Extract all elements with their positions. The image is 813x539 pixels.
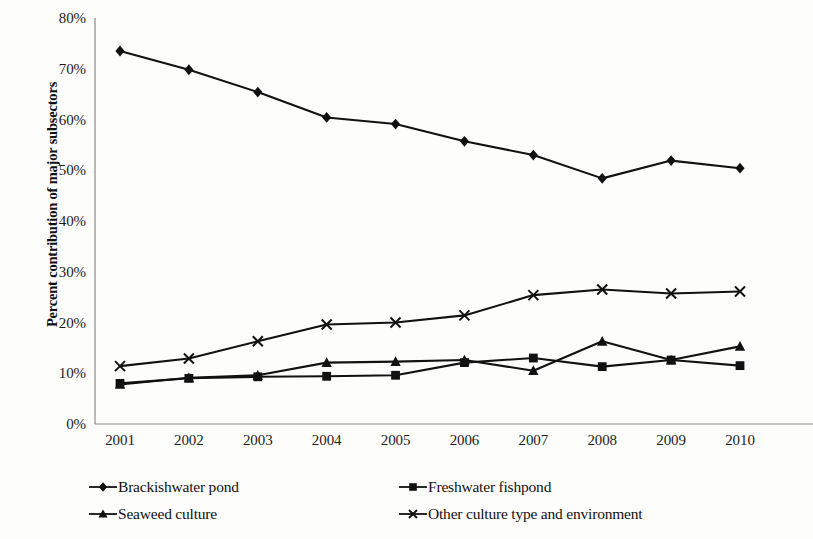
series-other-culture-type-and-environment bbox=[115, 285, 745, 372]
legend-item-brackishwater-pond: Brackishwater pond bbox=[88, 478, 398, 496]
data-point-diamond bbox=[460, 136, 469, 147]
legend-item-seaweed-culture: Seaweed culture bbox=[88, 505, 398, 523]
legend-item-other-culture-type-and-environment: Other culture type and environment bbox=[398, 505, 788, 523]
series-freshwater-fishpond bbox=[116, 354, 745, 388]
x-axis-tick-label: 2010 bbox=[725, 432, 755, 449]
cross-marker-icon bbox=[398, 507, 428, 521]
legend-label: Brackishwater pond bbox=[118, 478, 239, 496]
data-point-square bbox=[391, 371, 400, 380]
x-axis-tick-label: 2002 bbox=[174, 432, 204, 449]
data-point-diamond bbox=[322, 112, 331, 123]
data-point-diamond bbox=[115, 46, 124, 57]
data-point-diamond bbox=[391, 119, 400, 130]
square-marker-icon bbox=[398, 480, 428, 494]
x-axis-tick-label: 2005 bbox=[381, 432, 411, 449]
line-chart: Percent contribution of major subsectors… bbox=[0, 0, 813, 539]
data-point-square bbox=[322, 372, 331, 381]
x-axis-tick-label: 2008 bbox=[587, 432, 617, 449]
triangle-marker-icon bbox=[88, 507, 118, 521]
y-axis-tick-label: 20% bbox=[22, 314, 86, 331]
y-axis-tick-label: 10% bbox=[22, 365, 86, 382]
x-axis-tick-label: 2003 bbox=[243, 432, 273, 449]
data-point-square bbox=[736, 361, 745, 370]
plot-area bbox=[95, 18, 813, 424]
chart-legend: Brackishwater pond Freshwater fishpond S… bbox=[88, 478, 788, 523]
data-point-diamond bbox=[529, 150, 538, 161]
legend-item-freshwater-fishpond: Freshwater fishpond bbox=[398, 478, 788, 496]
x-axis-tick-label: 2006 bbox=[450, 432, 480, 449]
data-point-diamond bbox=[184, 64, 193, 75]
data-point-square bbox=[529, 354, 538, 363]
x-axis-tick-labels: 2001200220032004200520062007200820092010 bbox=[95, 432, 813, 458]
y-axis-tick-label: 50% bbox=[22, 162, 86, 179]
x-axis-tick-label: 2001 bbox=[105, 432, 135, 449]
data-point-diamond bbox=[667, 155, 676, 166]
y-axis-tick-label: 40% bbox=[22, 213, 86, 230]
series-line bbox=[120, 51, 740, 178]
x-axis-tick-label: 2009 bbox=[656, 432, 686, 449]
y-axis-tick-label: 60% bbox=[22, 111, 86, 128]
y-axis-tick-labels: 0%10%20%30%40%50%60%70%80% bbox=[22, 0, 86, 539]
y-axis-tick-label: 80% bbox=[22, 10, 86, 27]
data-point-triangle bbox=[597, 336, 607, 346]
x-axis-tick-label: 2007 bbox=[519, 432, 549, 449]
data-point-triangle bbox=[735, 341, 745, 351]
data-point-square bbox=[598, 362, 607, 371]
y-axis-tick-label: 0% bbox=[22, 416, 86, 433]
diamond-marker-icon bbox=[88, 480, 118, 494]
series-brackishwater-pond bbox=[115, 46, 744, 184]
series-line bbox=[120, 290, 740, 367]
x-axis-tick-label: 2004 bbox=[312, 432, 342, 449]
data-point-diamond bbox=[735, 163, 744, 174]
y-axis-tick-label: 70% bbox=[22, 60, 86, 77]
y-axis-tick-label: 30% bbox=[22, 263, 86, 280]
legend-label: Seaweed culture bbox=[118, 505, 217, 523]
legend-label: Freshwater fishpond bbox=[428, 478, 551, 496]
plot-svg bbox=[95, 18, 813, 424]
data-point-diamond bbox=[598, 173, 607, 184]
data-point-diamond bbox=[253, 87, 262, 98]
legend-label: Other culture type and environment bbox=[428, 505, 642, 523]
